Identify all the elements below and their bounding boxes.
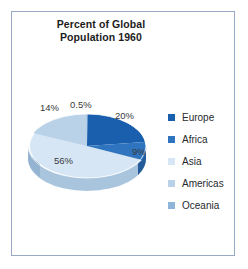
legend-label-africa: Africa xyxy=(182,134,208,145)
legend-swatch-africa xyxy=(168,136,175,143)
legend-label-oceania: Oceania xyxy=(182,200,219,211)
value-label-europe: 20% xyxy=(115,110,134,121)
chart-title-line-2: Population 1960 xyxy=(12,31,190,44)
legend-item-europe[interactable]: Europe xyxy=(168,106,234,128)
pie-top-face xyxy=(28,114,146,178)
value-label-africa: 9% xyxy=(132,146,146,157)
legend-label-europe: Europe xyxy=(182,112,214,123)
pie-chart-plot: 14% 0.5% 20% 9% 56% xyxy=(12,90,157,210)
legend-label-asia: Asia xyxy=(182,156,201,167)
chart-legend: Europe Africa Asia Americas Oceania xyxy=(168,106,234,216)
value-label-americas: 14% xyxy=(40,102,59,113)
legend-item-americas[interactable]: Americas xyxy=(168,172,234,194)
chart-title-line-1: Percent of Global xyxy=(12,18,190,31)
legend-item-oceania[interactable]: Oceania xyxy=(168,194,234,216)
legend-swatch-oceania xyxy=(168,202,175,209)
legend-item-asia[interactable]: Asia xyxy=(168,150,234,172)
chart-title: Percent of Global Population 1960 xyxy=(12,18,190,44)
legend-swatch-americas xyxy=(168,180,175,187)
legend-label-americas: Americas xyxy=(182,178,224,189)
legend-swatch-asia xyxy=(168,158,175,165)
value-label-oceania: 0.5% xyxy=(70,99,92,110)
value-label-asia: 56% xyxy=(54,155,73,166)
chart-figure: Percent of Global Population 1960 xyxy=(0,0,248,269)
legend-swatch-europe xyxy=(168,114,175,121)
legend-item-africa[interactable]: Africa xyxy=(168,128,234,150)
